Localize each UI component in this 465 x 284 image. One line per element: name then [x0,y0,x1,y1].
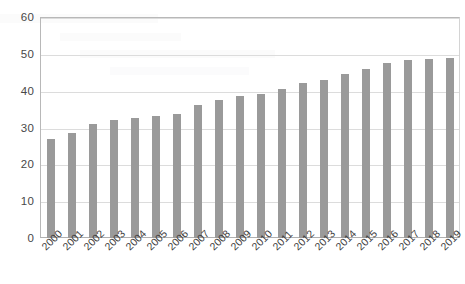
bar-2016 [383,63,391,238]
bar-2014 [341,74,349,238]
bar-2007 [194,105,202,238]
bar-2017 [404,60,412,238]
bar-2019 [446,58,454,238]
bar-2003 [110,120,118,238]
bar-2011 [278,89,286,238]
bar-2001 [68,133,76,238]
bar-2008 [215,100,223,238]
bar-2012 [299,83,307,238]
y-tick-label-0: 0 [4,232,34,244]
y-tick-label-40: 40 [4,85,34,97]
bar-chart: 6050403020100 20002001200220032004200520… [0,0,465,284]
bar-2000 [47,139,55,238]
bar-2006 [173,114,181,239]
bar-2004 [131,118,139,238]
bar-2015 [362,69,370,238]
bar-2013 [320,80,328,238]
y-tick-label-50: 50 [4,48,34,60]
bar-2002 [89,124,97,238]
y-tick-label-30: 30 [4,122,34,134]
bar-2005 [152,116,160,238]
bar-2010 [257,94,265,238]
x-axis: 2000200120022003200420052006200720082009… [40,238,460,284]
bar-2018 [425,59,433,238]
bar-2009 [236,96,244,238]
bar-series [40,17,460,238]
y-tick-label-10: 10 [4,195,34,207]
y-tick-label-60: 60 [4,11,34,23]
y-tick-label-20: 20 [4,158,34,170]
